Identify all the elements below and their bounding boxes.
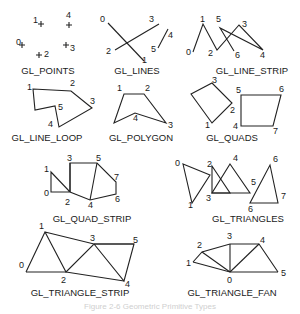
panel-title: GL_POINTS: [21, 65, 74, 76]
vertex-label: 3: [67, 153, 72, 163]
vertex-label: 2: [44, 49, 49, 59]
panel-quads: 1234567GL_QUADS: [191, 75, 284, 143]
panel-title: GL_QUAD_STRIP: [53, 213, 132, 224]
vertex-label: 4: [168, 30, 173, 40]
vertex-label: 3: [90, 233, 95, 243]
panel-polygon: 1234GL_POLYGON: [109, 83, 173, 143]
vertex-label: 7: [273, 126, 278, 136]
vertex-label: 3: [212, 75, 217, 85]
line-segment: [108, 23, 144, 61]
panel-title: GL_TRIANGLE_STRIP: [31, 287, 130, 298]
primitive-outline: [114, 94, 166, 123]
vertex-label: 4: [66, 10, 71, 20]
point-marker-icon: [38, 21, 44, 27]
vertex-label: 5: [151, 44, 156, 54]
panel-title: GL_POLYGON: [109, 132, 173, 143]
vertex-label: 5: [216, 14, 221, 24]
line-segment: [158, 29, 168, 48]
vertex-label: 0: [44, 188, 49, 198]
vertex-label: 3: [227, 231, 232, 241]
vertex-label: 2: [61, 275, 66, 285]
panel-triangle-strip: 012345GL_TRIANGLE_STRIP: [19, 221, 138, 298]
panel-title: GL_QUADS: [206, 132, 258, 143]
vertex-label: 4: [88, 200, 93, 210]
point-marker-icon: [36, 52, 42, 58]
vertex-label: 1: [117, 83, 122, 93]
vertex-label: 6: [279, 84, 284, 94]
vertex-label: 4: [260, 50, 265, 60]
vertex-label: 0: [19, 260, 24, 270]
vertex-label: 0: [16, 37, 21, 47]
panel-title: GL_LINE_LOOP: [12, 132, 83, 143]
vertex-label: 5: [236, 85, 241, 95]
figure-caption: Figure 2-6 Geometric Primitive Types: [84, 302, 216, 311]
edge: [66, 272, 124, 281]
vertex-label: 1: [205, 120, 210, 130]
point-marker-icon: [63, 42, 69, 48]
vertex-label: 3: [206, 193, 211, 203]
vertex-label: 2: [106, 46, 111, 56]
vertex-label: 6: [115, 194, 120, 204]
vertex-label: 5: [133, 235, 138, 245]
fan-spoke: [202, 252, 230, 272]
panel-triangles: 012345667GL_TRIANGLES: [175, 153, 286, 224]
vertex-label: 1: [142, 55, 147, 65]
vertex-label: 2: [65, 197, 70, 207]
vertex-label: 4: [233, 121, 238, 131]
point-marker-icon: [66, 22, 72, 28]
panel-line-strip: 0123456GL_LINE_STRIP: [186, 14, 288, 76]
vertex-label: 0: [100, 14, 105, 24]
vertex-label: 1: [200, 14, 205, 24]
vertex-label: 6: [235, 50, 240, 60]
vertex-label: 5: [281, 268, 286, 278]
vertex-label: 3: [90, 96, 95, 106]
vertex-label: 1: [33, 15, 38, 25]
vertex-label: 3: [168, 120, 173, 130]
edge: [90, 163, 97, 200]
vertex-label: 4: [233, 153, 238, 163]
vertex-label: 1: [188, 200, 193, 210]
fan-outline: [193, 244, 278, 272]
panel-title: GL_TRIANGLES: [212, 213, 284, 224]
vertex-label: 7: [281, 191, 286, 201]
panel-title: GL_LINES: [114, 65, 159, 76]
fan-spoke: [193, 262, 230, 272]
vertex-label: 3: [149, 14, 154, 24]
panel-quad-strip: 01234567GL_QUAD_STRIP: [44, 153, 131, 224]
vertex-label: 7: [114, 172, 119, 182]
fan-spoke: [230, 244, 259, 272]
vertex-label: 0: [175, 158, 180, 168]
panel-triangle-fan: 012345GL_TRIANGLE_FAN: [186, 231, 286, 298]
vertex-label: 1: [27, 82, 32, 92]
opengl-primitives-diagram: 01234GL_POINTS012345GL_LINES0123456GL_LI…: [0, 0, 300, 314]
vertex-label: 1: [44, 164, 49, 174]
panel-lines: 012345GL_LINES: [100, 14, 173, 76]
primitive-shape: [191, 83, 232, 123]
vertex-label: 4: [260, 235, 265, 245]
primitive-outline: [193, 24, 263, 52]
vertex-label: 4: [48, 119, 53, 129]
vertex-label: 6: [273, 154, 278, 164]
vertex-label: 2: [145, 83, 150, 93]
primitive-shape: [241, 95, 281, 126]
primitive-shape: [212, 164, 250, 193]
panel-title: GL_TRIANGLE_FAN: [187, 287, 276, 298]
vertex-label: 2: [197, 240, 202, 250]
primitive-outline: [51, 163, 116, 200]
vertex-label: 0: [227, 275, 232, 285]
vertex-label: 5: [96, 153, 101, 163]
panel-line-loop: 12345GL_LINE_LOOP: [12, 78, 95, 143]
vertex-label: 2: [230, 105, 235, 115]
vertex-label: 1: [186, 258, 191, 268]
vertex-label: 3: [70, 43, 75, 53]
vertex-label: 3: [242, 19, 247, 29]
vertex-label: 5: [58, 102, 63, 112]
vertex-label: 2: [207, 159, 212, 169]
vertex-label: 4: [133, 113, 138, 123]
vertex-label: 5: [251, 177, 256, 187]
panel-title: GL_LINE_STRIP: [216, 65, 288, 76]
vertex-label: 2: [208, 48, 213, 58]
vertex-label: 1: [39, 221, 44, 231]
panel-points: 01234GL_POINTS: [16, 10, 75, 76]
vertex-label: 0: [186, 47, 191, 57]
